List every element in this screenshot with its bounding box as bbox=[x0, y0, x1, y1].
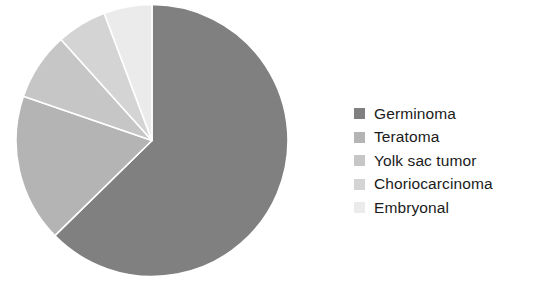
legend-item-choriocarcinoma[interactable]: Choriocarcinoma bbox=[354, 173, 544, 197]
legend-label-yolk-sac-tumor: Yolk sac tumor bbox=[374, 153, 476, 169]
pie-chart-plot-area bbox=[16, 2, 290, 280]
pie-chart-figure: Germinoma Teratoma Yolk sac tumor Chorio… bbox=[0, 0, 553, 283]
legend-item-teratoma[interactable]: Teratoma bbox=[354, 126, 544, 150]
legend-swatch-yolk-sac-tumor bbox=[354, 155, 365, 166]
pie-slice-group bbox=[16, 5, 288, 277]
legend-label-choriocarcinoma: Choriocarcinoma bbox=[374, 176, 493, 192]
legend-item-yolk-sac-tumor[interactable]: Yolk sac tumor bbox=[354, 149, 544, 173]
pie-chart-svg bbox=[16, 2, 290, 280]
legend-label-teratoma: Teratoma bbox=[374, 129, 439, 145]
legend-item-germinoma[interactable]: Germinoma bbox=[354, 102, 544, 126]
legend-swatch-teratoma bbox=[354, 132, 365, 143]
legend-label-embryonal: Embryonal bbox=[374, 200, 449, 216]
legend-swatch-choriocarcinoma bbox=[354, 179, 365, 190]
legend-swatch-germinoma bbox=[354, 108, 365, 119]
legend-swatch-embryonal bbox=[354, 202, 365, 213]
legend-item-embryonal[interactable]: Embryonal bbox=[354, 196, 544, 220]
legend-label-germinoma: Germinoma bbox=[374, 106, 456, 122]
chart-legend: Germinoma Teratoma Yolk sac tumor Chorio… bbox=[354, 102, 544, 220]
